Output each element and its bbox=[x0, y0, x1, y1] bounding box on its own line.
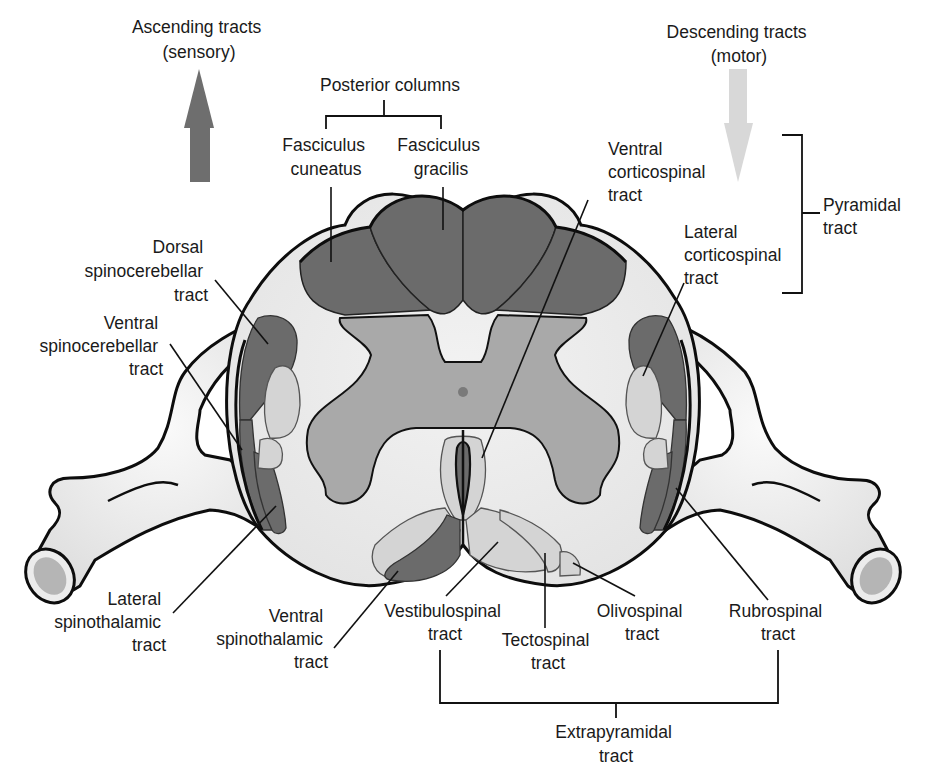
olivospinal-label: Olivospinal tract bbox=[597, 601, 687, 644]
rubrospinal-label: Rubrospinal tract bbox=[729, 601, 827, 644]
ventral-spinothalamic-label: Ventral spinothalamic tract bbox=[216, 606, 328, 672]
posterior-columns-label: Posterior columns bbox=[320, 75, 460, 95]
spinal-cord-diagram: Ascending tracts (sensory) Descending tr… bbox=[0, 0, 927, 778]
pyramidal-bracket bbox=[782, 135, 820, 293]
central-canal bbox=[458, 387, 468, 397]
ventral-spinocerebellar-label: Ventral spinocerebellar tract bbox=[39, 313, 163, 379]
vestibulospinal-label: Vestibulospinal tract bbox=[384, 601, 506, 644]
ascending-up-arrow-icon bbox=[184, 69, 214, 182]
descending-down-arrow-icon bbox=[724, 69, 753, 182]
ventral-corticospinal-label: Ventral corticospinal tract bbox=[608, 139, 710, 205]
fasciculus-gracilis-label: Fasciculus gracilis bbox=[397, 135, 485, 179]
dorsal-spinocerebellar-label: Dorsal spinocerebellar tract bbox=[84, 237, 208, 305]
fasciculus-cuneatus-label: Fasciculus cuneatus bbox=[282, 135, 370, 179]
lateral-corticospinal-label: Lateral corticospinal tract bbox=[684, 222, 786, 288]
ascending-tracts-label: Ascending tracts (sensory) bbox=[132, 17, 266, 62]
rubrospinal-right bbox=[644, 439, 668, 469]
pyramidal-tract-label: Pyramidal tract bbox=[823, 195, 906, 238]
posterior-columns-bracket bbox=[326, 100, 441, 129]
extrapyramidal-tract-label: Extrapyramidal tract bbox=[555, 722, 677, 766]
extrapyramidal-bracket bbox=[440, 650, 778, 718]
lateral-corticospinal-left bbox=[265, 366, 300, 438]
tectospinal-label: Tectospinal tract bbox=[502, 630, 594, 673]
lateral-spinothalamic-label: Lateral spinothalamic tract bbox=[54, 589, 166, 655]
descending-tracts-label: Descending tracts (motor) bbox=[667, 22, 812, 66]
rubrospinal-left bbox=[258, 439, 282, 469]
lateral-corticospinal-right bbox=[626, 366, 661, 438]
